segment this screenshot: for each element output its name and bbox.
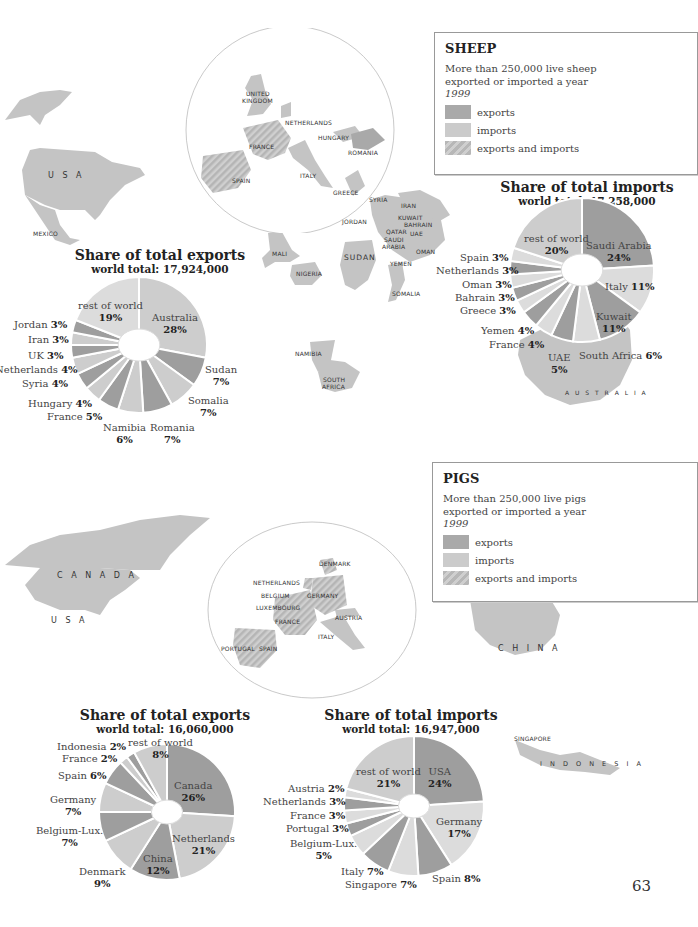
pie-label-spain-imp-pig: Spain 8% [432, 873, 481, 885]
pie-label-usa: USA24% [428, 766, 451, 790]
pie-label-netherlands-imp-pig: Netherlands 3% [263, 796, 346, 808]
pie-label-belgium-lux-imp: Belgium-Lux.5% [290, 838, 357, 862]
pie-label-singapore: Singapore 7% [345, 879, 417, 891]
animal-icon [398, 794, 429, 818]
pie-label-portugal: Portugal 3% [286, 823, 349, 835]
pie-label-france-imp-pig: France 3% [290, 810, 345, 822]
pie-label-rest-of-world-imp-pig: rest of world21% [356, 766, 421, 790]
pie-label-austria: Austria 2% [288, 783, 344, 795]
pie-label-italy-imp: Italy 7% [341, 866, 383, 878]
pie-label-germany-imp: Germany17% [436, 816, 482, 840]
page-number: 63 [632, 877, 651, 895]
